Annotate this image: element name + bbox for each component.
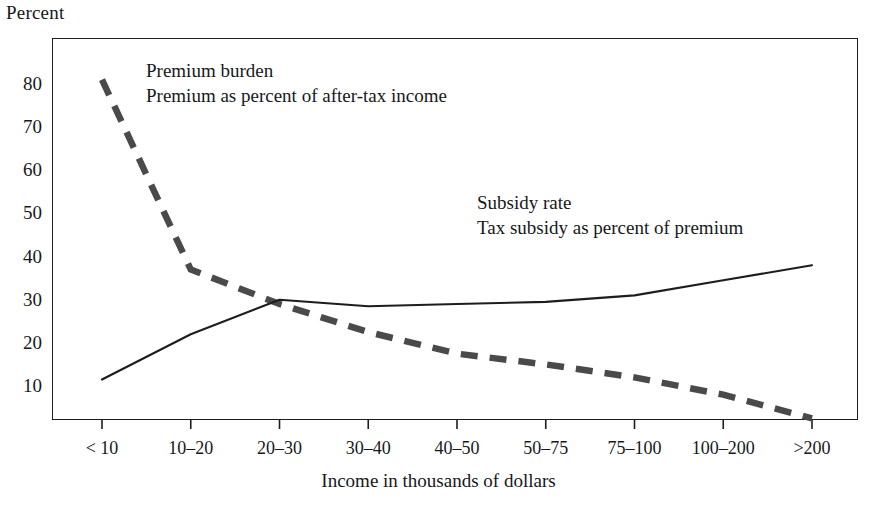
y-tick-label: 60 [2, 159, 42, 181]
y-tick-label: 20 [2, 332, 42, 354]
x-axis-tick-marks [102, 420, 812, 429]
x-tick-label: 10–20 [168, 438, 213, 459]
annotation-subsidy-rate-subtitle: Tax subsidy as percent of premium [477, 215, 743, 240]
y-tick-label: 70 [2, 116, 42, 138]
y-tick-label: 40 [2, 246, 42, 268]
annotation-subsidy-rate-title: Subsidy rate [477, 190, 743, 215]
x-tick-label: 40–50 [435, 438, 480, 459]
annotation-subsidy-rate: Subsidy rate Tax subsidy as percent of p… [477, 190, 743, 240]
y-tick-label: 10 [2, 375, 42, 397]
x-tick-label: >200 [793, 438, 830, 459]
annotation-premium-burden-subtitle: Premium as percent of after-tax income [146, 83, 447, 108]
chart-page: Percent 8070605040302010 < 1010–2020–303… [0, 0, 877, 508]
x-tick-label: < 10 [86, 438, 119, 459]
x-axis-title: Income in thousands of dollars [0, 470, 877, 492]
x-tick-label: 20–30 [257, 438, 302, 459]
annotation-premium-burden: Premium burden Premium as percent of aft… [146, 58, 447, 108]
x-tick-label: 75–100 [608, 438, 662, 459]
x-tick-label: 50–75 [523, 438, 568, 459]
x-tick-label: 30–40 [346, 438, 391, 459]
y-tick-label: 80 [2, 73, 42, 95]
x-tick-label: 100–200 [692, 438, 755, 459]
y-tick-label: 50 [2, 202, 42, 224]
y-axis-title: Percent [6, 2, 64, 24]
y-tick-label: 30 [2, 289, 42, 311]
annotation-premium-burden-title: Premium burden [146, 58, 447, 83]
